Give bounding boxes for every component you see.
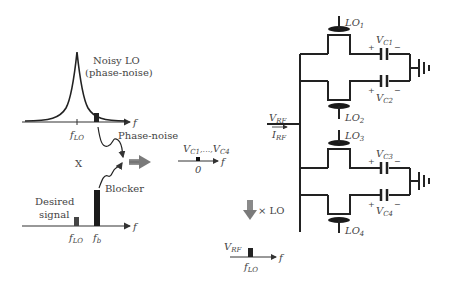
gray-right-arrow xyxy=(129,155,151,169)
vc-label: VC1,...,VC4 xyxy=(183,143,230,156)
vc2-minus: − xyxy=(394,86,401,95)
rf-bar xyxy=(248,248,253,257)
upconvert-label: × LO xyxy=(258,205,284,216)
baseband-spectrum: VC1,...,VC4 0 f xyxy=(178,143,230,175)
vc1-plus: + xyxy=(368,43,375,52)
capacitors xyxy=(381,48,387,201)
desired-signal-label-line1: Desired xyxy=(35,196,75,207)
rf-spectrum: VRF fLO f xyxy=(224,241,285,274)
vc4-minus: − xyxy=(394,200,401,209)
phase-noise-band xyxy=(94,113,99,122)
desired-signal-label-line2: signal xyxy=(39,209,69,220)
irf-input-label: IRF xyxy=(271,129,287,142)
noisy-lo-title: Noisy LO xyxy=(93,55,140,66)
noisy-lo-subtitle: (phase-noise) xyxy=(85,67,153,78)
lo4-label: LO4 xyxy=(344,225,364,238)
input-spectrum: f Desired signal Blocker fLO fb xyxy=(22,183,144,245)
blocker-bar xyxy=(94,190,100,226)
diagram-canvas: f fLO Noisy LO (phase-noise) Phase-noise… xyxy=(0,0,451,286)
vc1-label: VC1 xyxy=(376,34,393,47)
vc3-label: VC3 xyxy=(376,148,394,161)
vrf-label: VRF xyxy=(224,241,243,254)
axis-label-f: f xyxy=(132,221,139,232)
desired-signal-bar xyxy=(74,217,79,226)
tick-label-flo: fLO xyxy=(68,232,83,245)
switch-gates xyxy=(328,16,350,233)
axis-label-f: f xyxy=(132,117,139,128)
baseband-bar xyxy=(196,157,200,161)
vc3-plus: + xyxy=(368,157,375,166)
tick-label-zero: 0 xyxy=(195,164,202,175)
axis-label-f: f xyxy=(278,252,285,263)
gray-down-arrow xyxy=(243,200,257,220)
vc4-plus: + xyxy=(368,200,375,209)
blocker-label: Blocker xyxy=(105,183,144,194)
tick-label-flo: fLO xyxy=(69,129,84,142)
vc3-minus: − xyxy=(394,157,401,166)
ground-symbols xyxy=(419,59,429,190)
axis-label-f: f xyxy=(220,156,227,167)
phase-noise-label: Phase-noise xyxy=(118,130,178,141)
tick-label-flo: fLO xyxy=(243,261,258,274)
vc2-plus: + xyxy=(368,86,375,95)
vc4-label: VC4 xyxy=(376,205,393,218)
vc2-label: VC2 xyxy=(376,92,394,105)
vc1-minus: − xyxy=(394,43,401,52)
multiply-symbol: X xyxy=(75,158,83,169)
tick-label-fb: fb xyxy=(92,232,102,245)
lo2-label: LO2 xyxy=(344,112,365,125)
noisy-lo-spectrum: f fLO Noisy LO (phase-noise) Phase-noise xyxy=(22,52,178,142)
